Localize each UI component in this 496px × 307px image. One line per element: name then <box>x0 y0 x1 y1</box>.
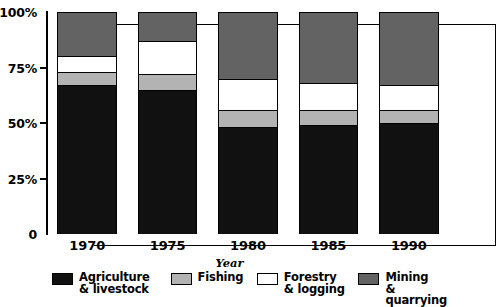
legend-label: Mining & quarrying <box>385 272 452 307</box>
legend-swatch <box>358 273 379 285</box>
x-axis-tick-label: 1990 <box>369 238 449 258</box>
bar-segment[interactable] <box>57 56 117 72</box>
bar-segment[interactable] <box>299 83 359 110</box>
stacked-bar[interactable] <box>57 12 117 234</box>
bar-segment[interactable] <box>138 12 198 41</box>
bar-segment[interactable] <box>218 79 278 110</box>
chart-legend: Agriculture & livestockFishingForestry &… <box>52 272 452 300</box>
bar-slot <box>47 12 127 234</box>
bar-group <box>47 12 449 234</box>
bar-segment[interactable] <box>57 12 117 56</box>
legend-swatch <box>52 273 73 285</box>
legend-item[interactable]: Agriculture & livestock <box>52 272 163 295</box>
legend-label: Forestry & logging <box>284 272 345 295</box>
stacked-bar[interactable] <box>379 12 439 234</box>
plot-area: 100%75%50%25%0 <box>47 12 449 234</box>
bar-segment[interactable] <box>138 90 198 234</box>
bar-segment[interactable] <box>57 85 117 234</box>
legend-swatch <box>257 273 278 285</box>
y-axis-tick-label: 25% <box>8 171 37 186</box>
y-axis-tick-label: 75% <box>8 60 37 75</box>
bar-segment[interactable] <box>299 110 359 126</box>
legend-item[interactable]: Mining & quarrying <box>358 272 452 307</box>
bar-segment[interactable] <box>138 41 198 74</box>
bar-segment[interactable] <box>379 110 439 123</box>
bar-slot <box>369 12 449 234</box>
bar-slot <box>208 12 288 234</box>
bar-segment[interactable] <box>299 12 359 83</box>
x-axis-tick-label: 1975 <box>127 238 207 258</box>
y-axis-tick-label: 100% <box>0 5 37 20</box>
legend-label: Fishing <box>198 272 244 284</box>
y-axis-tick-label: 0 <box>29 227 38 242</box>
bar-segment[interactable] <box>57 72 117 85</box>
legend-item[interactable]: Forestry & logging <box>257 272 351 295</box>
bar-segment[interactable] <box>138 74 198 90</box>
x-axis-tick-label: 1985 <box>288 238 368 258</box>
stacked-bar[interactable] <box>218 12 278 234</box>
stacked-bar[interactable] <box>138 12 198 234</box>
x-axis-tick-label: 1980 <box>208 238 288 258</box>
bar-segment[interactable] <box>218 110 278 128</box>
x-axis-title: Year <box>0 256 459 270</box>
bar-segment[interactable] <box>379 85 439 109</box>
bar-segment[interactable] <box>299 125 359 234</box>
bar-segment[interactable] <box>218 127 278 234</box>
bar-slot <box>127 12 207 234</box>
x-axis-tick-label: 1970 <box>47 238 127 258</box>
y-axis-tick-label: 50% <box>8 116 37 131</box>
legend-item[interactable]: Fishing <box>171 272 249 285</box>
bar-segment[interactable] <box>218 12 278 79</box>
legend-label: Agriculture & livestock <box>79 272 150 295</box>
bar-segment[interactable] <box>379 123 439 234</box>
legend-swatch <box>171 273 192 285</box>
x-axis-labels: 19701975198019851990 <box>47 238 449 258</box>
bar-slot <box>288 12 368 234</box>
bar-segment[interactable] <box>379 12 439 85</box>
stacked-bar[interactable] <box>299 12 359 234</box>
